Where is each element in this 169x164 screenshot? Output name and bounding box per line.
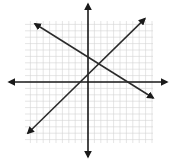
coordinate-plane (0, 0, 169, 164)
line-increasing (28, 19, 145, 134)
axes (9, 4, 167, 157)
line-decreasing (35, 24, 153, 98)
plotted-lines (28, 19, 153, 134)
